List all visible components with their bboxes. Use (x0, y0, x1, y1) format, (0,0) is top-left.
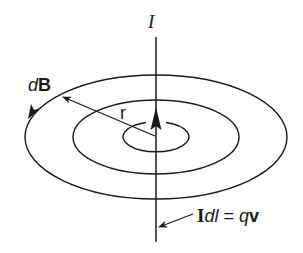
element-dl-label: dl (204, 206, 218, 226)
field-element-label: dB (28, 76, 51, 94)
current-label: I (148, 12, 154, 31)
element-v-label: v (249, 206, 259, 226)
radius-label: r (120, 104, 126, 122)
radius-vector (63, 97, 155, 136)
element-equals-label: = (218, 206, 239, 226)
field-direction-arrow-icon (28, 104, 41, 119)
element-q-label: q (239, 206, 249, 226)
current-element-label: Idl = qv (197, 206, 259, 225)
current-element-pointer (159, 214, 193, 227)
field-d-label: d (28, 75, 38, 95)
field-B-label: B (38, 75, 51, 95)
